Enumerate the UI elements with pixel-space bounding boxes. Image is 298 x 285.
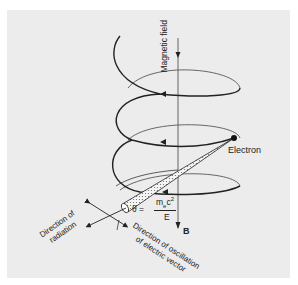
axis-arrow-top-icon bbox=[176, 52, 181, 58]
radiation-direction-arrow bbox=[88, 208, 126, 226]
formula-lhs: θ = bbox=[132, 205, 144, 214]
electron-dot bbox=[231, 135, 237, 141]
electron-label: Electron bbox=[228, 146, 261, 155]
loop-arrow-2-icon bbox=[160, 139, 166, 145]
oscillation-direction-arrow bbox=[88, 202, 126, 226]
magnetic-field-label: Magnetic field bbox=[160, 20, 169, 72]
formula-denominator: E bbox=[164, 213, 170, 222]
axis-arrow-bottom-icon bbox=[176, 222, 181, 229]
radiation-cone bbox=[124, 138, 234, 212]
helix-loop-1-back bbox=[128, 70, 240, 88]
angle-tick bbox=[117, 220, 119, 230]
helix-front bbox=[113, 36, 240, 194]
field-symbol-label: B bbox=[183, 227, 190, 236]
formula-numerator: mec2 bbox=[154, 196, 176, 211]
helix-loop-2-back bbox=[128, 125, 240, 140]
loop-arrow-1-icon bbox=[160, 91, 166, 97]
